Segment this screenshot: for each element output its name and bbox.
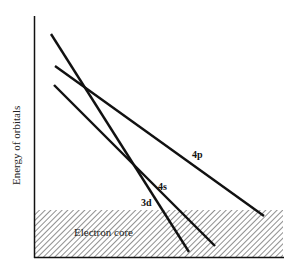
label-4p: 4p bbox=[192, 149, 203, 160]
label-3d: 3d bbox=[141, 197, 152, 208]
label-4s: 4s bbox=[158, 181, 167, 192]
electron-core-label: Electron core bbox=[74, 226, 133, 238]
orbital-energy-diagram: 4p 4s 3d Electron core Energy of orbital… bbox=[0, 0, 301, 276]
orbital-line-4p bbox=[55, 66, 264, 216]
electron-core-region bbox=[35, 210, 283, 257]
y-axis-label: Energy of orbitals bbox=[10, 106, 22, 185]
